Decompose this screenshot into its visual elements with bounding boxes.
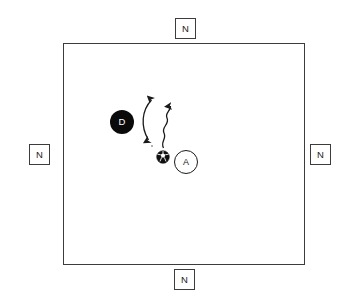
attacker-token-label: A [183, 158, 189, 167]
neutral-player-bottom-label: N [181, 275, 188, 285]
neutral-player-left-label: N [36, 150, 43, 160]
defender-token[interactable]: D [110, 110, 134, 134]
soccer-ball-icon[interactable] [156, 150, 170, 164]
soccer-ball-svg [156, 150, 170, 164]
neutral-player-left[interactable]: N [29, 144, 50, 165]
neutral-player-top[interactable]: N [175, 18, 196, 39]
neutral-player-right-label: N [317, 150, 324, 160]
defender-token-label: D [119, 117, 126, 127]
cone-marker-dot [151, 145, 153, 147]
neutral-player-top-label: N [182, 24, 189, 34]
attacker-token[interactable]: A [174, 150, 198, 174]
neutral-player-bottom[interactable]: N [174, 269, 195, 290]
diagram-canvas: N N N N D A [0, 0, 346, 308]
neutral-player-right[interactable]: N [310, 144, 331, 165]
